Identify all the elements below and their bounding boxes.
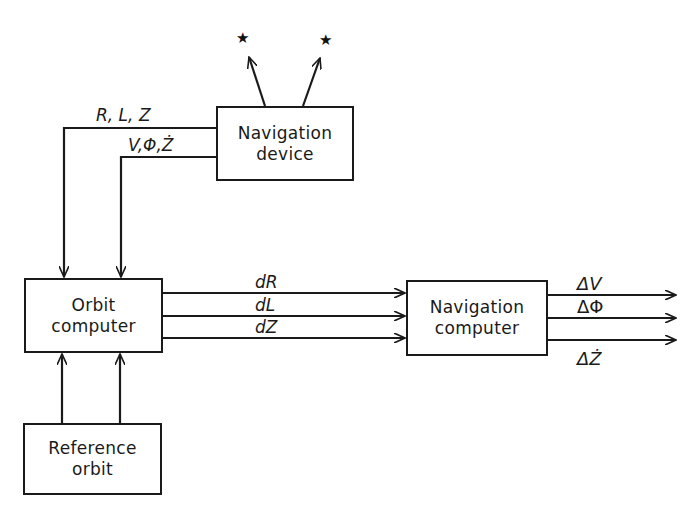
orbit-computer-block: Orbit computer: [24, 278, 163, 353]
navigation-computer-label-2: computer: [435, 318, 519, 339]
navigation-computer-label-1: Navigation: [430, 297, 525, 318]
output-label-dzdot: ΔŻ: [577, 350, 602, 368]
arrow-to-star-left: [249, 57, 265, 106]
arrow-vphiz: [121, 157, 216, 277]
orbit-computer-label-2: computer: [51, 316, 135, 337]
output-label-dv: ΔV: [577, 275, 602, 293]
navigation-computer-block: Navigation computer: [406, 280, 548, 356]
arrow-to-star-right: [303, 58, 320, 106]
star-icon-right: ★: [319, 33, 332, 48]
reference-orbit-label-2: orbit: [72, 459, 113, 480]
orbit-navigation-block-diagram: ★ ★ Navigation device Orbit computer Nav…: [0, 0, 697, 521]
orbit-computer-label-1: Orbit: [71, 295, 115, 316]
signal-label-dl: dL: [255, 296, 275, 314]
output-label-dphi: ΔΦ: [577, 298, 603, 316]
reference-orbit-label-1: Reference: [48, 438, 136, 459]
star-icon-left: ★: [236, 31, 249, 46]
reference-orbit-block: Reference orbit: [23, 423, 162, 495]
signal-label-dz: dZ: [255, 318, 277, 336]
signal-label-dr: dR: [255, 273, 278, 291]
navigation-device-label-1: Navigation: [238, 123, 333, 144]
navigation-device-block: Navigation device: [216, 106, 354, 181]
signal-label-vphiz: V,Φ,Ż: [128, 136, 174, 154]
signal-label-rlz: R, L, Z: [96, 106, 151, 124]
navigation-device-label-2: device: [256, 144, 314, 165]
